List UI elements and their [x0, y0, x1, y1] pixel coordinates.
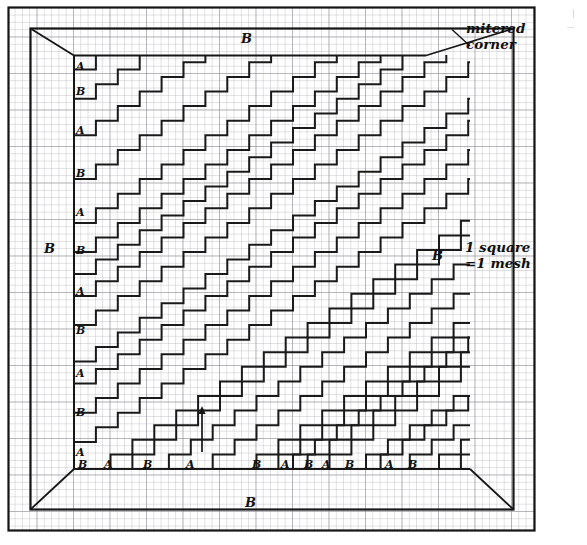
edge-label-top: B — [241, 32, 252, 45]
scale-note-line1: 1 square — [465, 240, 531, 256]
left-stripe-label-2: A — [76, 125, 85, 136]
left-stripe-label-7: B — [76, 325, 85, 336]
edge-label-left: B — [44, 242, 55, 255]
scan-artifact-mark-1 — [573, 9, 574, 18]
mitered-corner-note: mitered corner — [466, 21, 525, 53]
scan-artifact-mark-2 — [567, 27, 574, 28]
bottom-stripe-label-4: B — [252, 459, 261, 470]
mitered-corner-note-line2: corner — [466, 37, 525, 53]
figure-canvas: B B B B mitered corner 1 square =1 mesh … — [0, 0, 587, 545]
bottom-stripe-label-2: B — [143, 459, 152, 470]
bottom-stripe-label-7: A — [322, 459, 331, 470]
bottom-stripe-label-10: B — [408, 459, 417, 470]
left-stripe-label-10: A — [76, 447, 85, 458]
edge-label-bottom: B — [245, 496, 256, 509]
edge-label-right: B — [432, 249, 443, 262]
left-stripe-label-1: B — [76, 86, 85, 97]
bottom-stripe-label-9: A — [385, 459, 394, 470]
left-stripe-label-6: A — [76, 286, 85, 297]
bottom-stripe-label-8: B — [345, 459, 354, 470]
left-stripe-label-9: B — [76, 407, 85, 418]
scale-note-line2: =1 mesh — [465, 256, 531, 272]
bottom-stripe-label-0: B — [78, 459, 87, 470]
left-stripe-label-3: B — [76, 168, 85, 179]
bottom-stripe-label-3: A — [186, 459, 195, 470]
left-stripe-label-5: B — [76, 245, 85, 256]
scale-note: 1 square =1 mesh — [465, 240, 531, 272]
graph-paper-grid — [9, 8, 535, 531]
mitered-corner-note-line1: mitered — [466, 21, 525, 37]
needlepoint-chart-svg — [0, 0, 587, 545]
left-stripe-label-0: A — [76, 61, 85, 72]
bottom-stripe-label-5: A — [281, 459, 290, 470]
left-stripe-label-8: A — [76, 368, 85, 379]
bottom-stripe-label-1: A — [104, 459, 113, 470]
left-stripe-label-4: A — [76, 207, 85, 218]
bottom-stripe-label-6: B — [304, 459, 313, 470]
